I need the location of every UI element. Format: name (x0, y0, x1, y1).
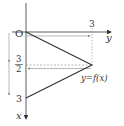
x-axis-label: x (16, 110, 22, 121)
function-graph-diagram: O 3 y 3 2 3 x y=f(x) (0, 0, 124, 126)
x-tick-3-half-denominator: 2 (16, 64, 21, 74)
y-tick-3: 3 (89, 19, 95, 29)
x-tick-3-half-numerator: 3 (16, 54, 21, 64)
function-label: y=f(x) (80, 73, 108, 83)
origin-label: O (15, 28, 23, 39)
y-axis-label: y (105, 32, 112, 43)
x-tick-3: 3 (16, 93, 22, 104)
